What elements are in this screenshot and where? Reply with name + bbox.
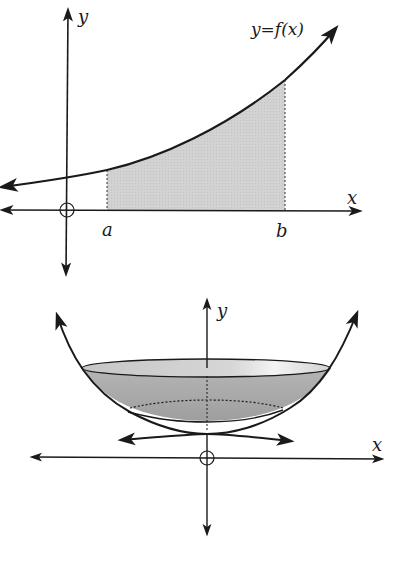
curve-label: y=f(x) <box>250 19 304 39</box>
y-axis-top <box>66 10 68 274</box>
shifted-axis-line <box>121 434 291 441</box>
y-axis-label-bottom: y <box>216 300 228 321</box>
y-axis-label-top: y <box>77 6 89 27</box>
bound-a-label: a <box>102 219 113 240</box>
x-axis-top <box>2 210 360 211</box>
figure-top: y y=f(x) x a b <box>2 6 360 274</box>
bowl-top-surface <box>82 359 330 377</box>
figure-bottom: y x <box>32 300 382 534</box>
x-axis-label-bottom: x <box>372 434 382 455</box>
diagram-canvas: y y=f(x) x a b y x <box>0 0 402 563</box>
bound-b-label: b <box>276 220 288 241</box>
x-axis-label-top: x <box>347 187 357 208</box>
